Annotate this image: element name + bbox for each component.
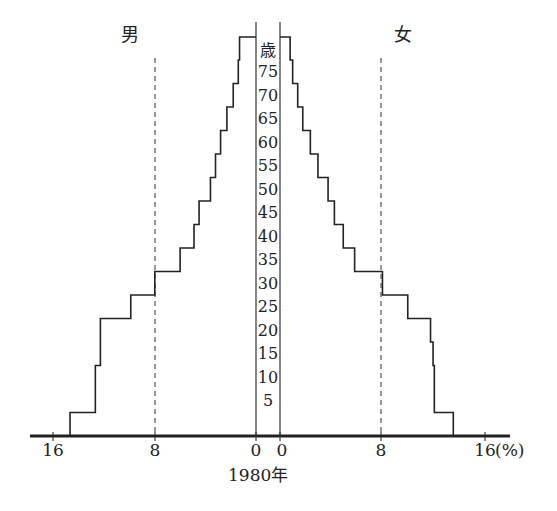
age-label-45: 45 [256, 203, 280, 222]
male-step-outline [70, 37, 256, 436]
age-label-25: 25 [256, 297, 280, 316]
age-label-75: 75 [256, 62, 280, 81]
age-label-35: 35 [256, 250, 280, 269]
year-label: 1980年 [228, 461, 288, 486]
age-label-40: 40 [256, 227, 280, 246]
age-label-5: 5 [256, 391, 280, 410]
age-label-70: 70 [256, 86, 280, 105]
age-label-30: 30 [256, 274, 280, 293]
age-label-65: 65 [256, 109, 280, 128]
age-label-60: 60 [256, 133, 280, 152]
age-label-50: 50 [256, 180, 280, 199]
age-unit-label: 歳 [256, 37, 280, 61]
male-tick-0: 0 [251, 440, 262, 460]
male-tick-8: 8 [150, 440, 161, 460]
female-tick-0: 0 [277, 440, 288, 460]
female-label: 女 [394, 20, 412, 46]
age-label-55: 55 [256, 156, 280, 175]
female-tick-8: 8 [376, 440, 387, 460]
female-step-outline [280, 37, 453, 436]
male-label: 男 [121, 20, 139, 46]
female-tick-16: 16 [474, 440, 496, 460]
percent-unit-label: (%) [495, 440, 524, 460]
age-label-10: 10 [256, 368, 280, 387]
age-label-15: 15 [256, 344, 280, 363]
male-tick-16: 16 [42, 440, 64, 460]
age-label-20: 20 [256, 321, 280, 340]
